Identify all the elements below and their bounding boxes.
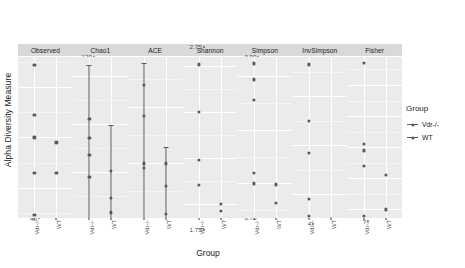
gridline-minor xyxy=(183,135,238,136)
data-point xyxy=(274,183,277,186)
gridline-vertical xyxy=(56,57,57,218)
gridline-minor xyxy=(237,157,292,158)
data-point xyxy=(307,151,310,154)
gridline-vertical xyxy=(386,57,387,218)
gridline-major xyxy=(128,163,183,164)
error-bar xyxy=(89,65,90,218)
gridline-minor xyxy=(347,194,402,195)
facet-strip-label: Fisher xyxy=(347,44,402,56)
facet-column: ACEVdr-/-WT xyxy=(128,30,183,248)
facet-column: SimpsonVdr-/-WT xyxy=(237,30,292,248)
data-point xyxy=(219,202,222,205)
facet-column: Chao1Vdr-/-WT xyxy=(73,30,128,248)
legend-item[interactable]: WT xyxy=(406,131,464,144)
facet-strip-label: InvSimpson xyxy=(292,44,347,56)
y-axis-title-text: Alpha Diversity Measure xyxy=(3,73,13,167)
data-point xyxy=(384,208,387,211)
y-axis-observed: 40506070 xyxy=(18,10,38,30)
data-point xyxy=(55,141,58,144)
data-point xyxy=(110,211,113,214)
facet-invsimpson: 46810InvSimpsonVdr-/-WT xyxy=(292,10,347,248)
data-point xyxy=(55,171,58,174)
gridline-minor xyxy=(18,112,73,113)
y-axis-chao1: 6080100120 xyxy=(73,10,93,30)
plot-area-shannon xyxy=(183,57,238,218)
legend-dot-icon xyxy=(411,136,414,139)
gridline-major xyxy=(183,112,238,113)
x-axis-ticks: Vdr-/-WT xyxy=(18,218,73,248)
data-point xyxy=(165,162,168,165)
data-point xyxy=(143,114,146,117)
error-bar-cap xyxy=(87,65,92,66)
legend-dot-icon xyxy=(411,123,414,126)
data-point xyxy=(307,198,310,201)
legend-key-icon xyxy=(406,131,419,144)
alpha-diversity-plot: Alpha Diversity Measure 40506070Observed… xyxy=(0,0,465,268)
gridline-vertical xyxy=(254,57,255,218)
x-tick-label: Vdr-/- xyxy=(144,220,150,235)
gridline-vertical xyxy=(221,57,222,218)
data-point xyxy=(252,171,255,174)
gridline-major xyxy=(128,107,183,108)
gridline-minor xyxy=(73,100,128,101)
data-point xyxy=(384,174,387,177)
x-tick-label: WT xyxy=(166,220,172,229)
x-axis-ticks: Vdr-/-WT xyxy=(183,218,238,248)
data-point xyxy=(165,184,168,187)
data-point xyxy=(88,175,91,178)
facet-fisher: 789101112FisherVdr-/-WT xyxy=(347,10,402,248)
y-axis-ace: 6080100 xyxy=(128,10,148,30)
data-point xyxy=(33,136,36,139)
plot-area-observed xyxy=(18,57,73,218)
gridline-major xyxy=(18,137,73,138)
facet-strip-label: ACE xyxy=(128,44,183,56)
y-tick-label: 2.75 xyxy=(190,43,202,50)
gridline-minor xyxy=(128,191,183,192)
data-point xyxy=(252,78,255,81)
gridline-minor xyxy=(73,148,128,149)
legend-item-label: Vdr-/- xyxy=(422,121,439,128)
gridline-minor xyxy=(292,121,347,122)
error-bar xyxy=(166,147,167,218)
gridline-minor xyxy=(73,196,128,197)
gridline-major xyxy=(347,116,402,117)
facet-panel-container: 40506070ObservedVdr-/-WT6080100120Chao1V… xyxy=(18,10,402,248)
x-axis-ticks: Vdr-/-WT xyxy=(347,218,402,248)
gridline-vertical xyxy=(331,57,332,218)
gridline-major xyxy=(18,188,73,189)
legend-title: Group xyxy=(406,104,464,113)
x-axis-title: Group xyxy=(18,248,398,258)
data-point xyxy=(88,137,91,140)
plot-area-fisher xyxy=(347,57,402,218)
gridline-major xyxy=(183,204,238,205)
gridline-minor xyxy=(18,62,73,63)
y-axis-shannon: 1.752.002.252.502.75 xyxy=(183,10,203,30)
gridline-major xyxy=(292,194,347,195)
gridline-minor xyxy=(347,69,402,70)
facet-strip-label: Observed xyxy=(18,44,73,56)
error-bar-cap xyxy=(109,125,114,126)
x-axis-ticks: Vdr-/-WT xyxy=(237,218,292,248)
gridline-major xyxy=(347,209,402,210)
gridline-minor xyxy=(18,213,73,214)
gridline-vertical xyxy=(309,57,310,218)
facet-chao1: 6080100120Chao1Vdr-/-WT xyxy=(73,10,128,248)
gridline-vertical xyxy=(276,57,277,218)
data-point xyxy=(362,143,365,146)
gridline-minor xyxy=(347,163,402,164)
legend: Group Vdr-/-WT xyxy=(406,104,464,144)
data-point xyxy=(197,158,200,161)
legend-item-label: WT xyxy=(422,134,433,141)
data-point xyxy=(88,153,91,156)
plot-area-chao1 xyxy=(73,57,128,218)
x-tick-label: Vdr-/- xyxy=(89,220,95,235)
x-tick-label: Vdr-/- xyxy=(34,220,40,235)
data-point xyxy=(143,166,146,169)
facet-column: ShannonVdr-/-WT xyxy=(183,30,238,248)
gridline-minor xyxy=(347,101,402,102)
legend-item[interactable]: Vdr-/- xyxy=(406,118,464,131)
gridline-major xyxy=(73,172,128,173)
x-tick-label: WT xyxy=(111,220,117,229)
x-tick-label: WT xyxy=(386,220,392,229)
facet-column: ObservedVdr-/-WT xyxy=(18,30,73,248)
